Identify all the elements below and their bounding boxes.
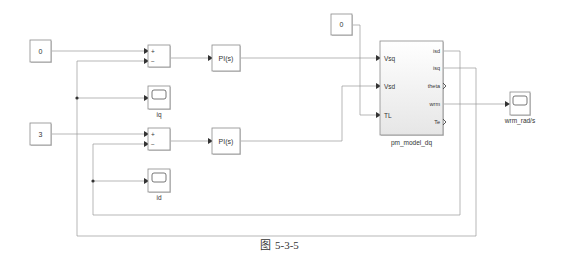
pi-controller-d-label: PI(s)	[219, 138, 234, 146]
scope-id-label: id	[156, 194, 161, 201]
output-port-te: Te	[434, 119, 440, 125]
pm-model-dq-subsystem[interactable]: Vsq Vsd TL isd isq theta wrm Te pm_model…	[380, 41, 446, 147]
output-port-isd: isd	[433, 48, 440, 54]
scope-iq-label: iq	[156, 111, 161, 119]
sum-q-block[interactable]: + −	[148, 45, 171, 68]
scope-iq-screen-icon	[152, 90, 166, 99]
figure-caption: 图 5-3-5	[260, 239, 299, 251]
input-port-vsd: Vsd	[384, 83, 396, 90]
scope-wrm-block[interactable]: wrm_rad/s	[504, 92, 536, 125]
scope-wrm-screen-icon	[513, 96, 527, 105]
constant-id-ref-block[interactable]: 3	[30, 123, 52, 146]
constant-id-ref-value: 3	[39, 131, 43, 138]
branch-point-isq	[75, 96, 78, 99]
sum-d-plus-sign: +	[151, 131, 155, 138]
sum-q-minus-sign: −	[151, 58, 155, 65]
wire-pi2-to-vsd[interactable]	[240, 86, 377, 141]
arrowheads	[144, 48, 510, 184]
sum-d-minus-sign: −	[151, 141, 155, 148]
sum-q-plus-sign: +	[151, 48, 155, 55]
scope-wrm-label: wrm_rad/s	[504, 117, 536, 125]
scope-id-block[interactable]: id	[148, 169, 171, 201]
scope-iq-block[interactable]: iq	[148, 86, 171, 119]
constant-iq-ref-block[interactable]: 0	[30, 40, 52, 63]
subsystem-name-label: pm_model_dq	[391, 139, 433, 147]
branch-point-isd	[91, 179, 94, 182]
output-port-wrm: wrm	[429, 101, 441, 107]
scope-id-screen-icon	[152, 173, 166, 182]
wire-load-to-tl[interactable]	[352, 25, 377, 115]
input-port-tl: TL	[384, 112, 392, 119]
pi-controller-q-label: PI(s)	[219, 55, 234, 63]
caption-number: 5-3-5	[275, 239, 299, 251]
output-port-theta: theta	[428, 83, 441, 89]
output-port-isq: isq	[433, 65, 440, 71]
constant-load-torque-value: 0	[340, 21, 344, 28]
constant-iq-ref-value: 0	[39, 48, 43, 55]
pi-controller-d-block[interactable]: PI(s)	[212, 128, 241, 155]
constant-load-torque-block[interactable]: 0	[331, 14, 353, 36]
caption-figure-icon: 图	[260, 239, 271, 251]
pi-controller-q-block[interactable]: PI(s)	[212, 45, 241, 72]
input-port-vsq: Vsq	[384, 55, 396, 63]
sum-d-block[interactable]: + −	[148, 128, 171, 151]
simulink-diagram: 0 3 0 + − + − PI(s) PI(s)	[0, 0, 564, 257]
